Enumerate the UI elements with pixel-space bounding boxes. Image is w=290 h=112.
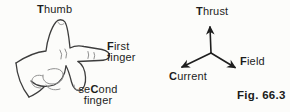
first-finger-label: First finger [107, 41, 136, 62]
current-arrow [182, 53, 211, 67]
figure-caption: Fig. 66.3 [237, 89, 286, 101]
current-label: Current [169, 71, 207, 82]
field-label: Field [240, 56, 265, 67]
wrist-line [16, 63, 29, 97]
wrist-bottom-line [29, 87, 44, 97]
thumb-label: Thumb [37, 4, 72, 15]
thumb-index-outline [16, 20, 110, 63]
second-finger-label: seCond finger [76, 84, 120, 105]
vector-diagram [182, 27, 235, 68]
field-arrow [211, 53, 235, 68]
figure-66-3: Thumb First finger seCond finger Thrust … [0, 0, 290, 112]
thrust-label: Thrust [196, 6, 228, 17]
thrust-arrow [210, 27, 211, 53]
